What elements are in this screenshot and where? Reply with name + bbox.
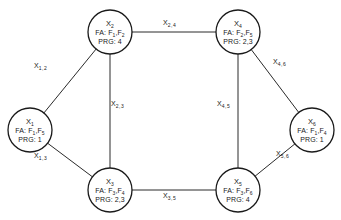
node-x3: X3FA: F3,F4PRG: 2,3 xyxy=(87,167,133,213)
fa-label: FA: xyxy=(297,127,308,134)
edge-label-2-3: X2,3 xyxy=(111,100,124,108)
prg-label: PRG: xyxy=(223,38,241,45)
edge-label-4-5: X4,5 xyxy=(217,100,230,108)
node-id: X1 xyxy=(26,117,34,126)
node-prg: PRG: 1 xyxy=(18,135,42,144)
edge-subscript: 4,5 xyxy=(222,103,231,109)
node-prg: PRG: 2,3 xyxy=(223,37,253,46)
edge-subscript: 5,6 xyxy=(281,153,290,159)
node-x6: X6FA: F1,F4PRG: 1 xyxy=(289,107,335,153)
node-fa: FA: F1,F2 xyxy=(95,28,124,37)
fa-label: FA: xyxy=(223,187,234,194)
prg-value: 1 xyxy=(320,136,324,143)
node-x2: X2FA: F1,F2PRG: 4 xyxy=(87,9,133,55)
edge-label-4-6: X4,6 xyxy=(273,58,286,66)
edge-subscript: 3,5 xyxy=(168,195,177,201)
prg-label: PRG: xyxy=(300,136,318,143)
fa-label: FA: xyxy=(95,187,106,194)
edge-subscript: 4,6 xyxy=(278,61,287,67)
node-id: X6 xyxy=(308,117,316,126)
edge-label-2-4: X2,4 xyxy=(163,19,176,27)
prg-value: 1 xyxy=(38,136,42,143)
node-prg: PRG: 4 xyxy=(226,195,250,204)
fa-label: FA: xyxy=(223,29,234,36)
nodes-group xyxy=(8,10,334,212)
node-fa: FA: F2,F5 xyxy=(223,28,252,37)
edge-label-5-6: X5,6 xyxy=(276,150,289,158)
node-fa: FA: F3,F4 xyxy=(95,186,124,195)
prg-label: PRG: xyxy=(226,196,244,203)
prg-label: PRG: xyxy=(95,196,113,203)
node-fa: FA: F3,F6 xyxy=(223,186,252,195)
node-fa: FA: F1,F4 xyxy=(297,126,326,135)
node-fa: FA: F1,F5 xyxy=(15,126,44,135)
fa-subscript: 4 xyxy=(324,130,327,136)
node-prg: PRG: 1 xyxy=(300,135,324,144)
edges-group xyxy=(30,32,312,190)
prg-value: 2,3 xyxy=(115,196,125,203)
node-prg: PRG: 2,3 xyxy=(95,195,125,204)
node-id: X2 xyxy=(106,19,114,28)
node-id: X3 xyxy=(106,177,114,186)
node-id: X4 xyxy=(234,19,242,28)
prg-value: 4 xyxy=(118,38,122,45)
node-x1: X1FA: F1,F5PRG: 1 xyxy=(7,107,53,153)
fa-subscript: 6 xyxy=(250,190,253,196)
edge-label-3-5: X3,5 xyxy=(163,192,176,200)
fa-label: FA: xyxy=(15,127,26,134)
edge-subscript: 1,3 xyxy=(39,155,48,161)
prg-value: 2,3 xyxy=(243,38,253,45)
prg-label: PRG: xyxy=(18,136,36,143)
fa-subscript: 5 xyxy=(42,130,45,136)
edge-subscript: 2,4 xyxy=(168,22,177,28)
node-x4: X4FA: F2,F5PRG: 2,3 xyxy=(215,9,261,55)
edge-subscript: 1,2 xyxy=(39,65,48,71)
edge-subscript: 2,3 xyxy=(116,103,125,109)
fa-subscript: 2 xyxy=(122,32,125,38)
edge-label-1-3: X1,3 xyxy=(34,152,47,160)
node-prg: PRG: 4 xyxy=(98,37,122,46)
fa-label: FA: xyxy=(95,29,106,36)
node-id: X5 xyxy=(234,177,242,186)
prg-value: 4 xyxy=(246,196,250,203)
prg-label: PRG: xyxy=(98,38,116,45)
edge-label-1-2: X1,2 xyxy=(34,62,47,70)
node-x5: X5FA: F3,F6PRG: 4 xyxy=(215,167,261,213)
